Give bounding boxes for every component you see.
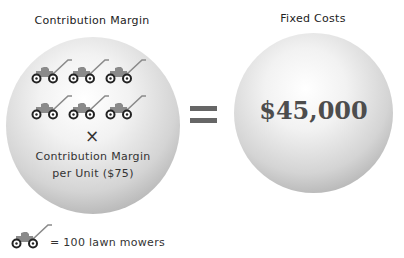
equals-bar-top <box>190 106 217 111</box>
lawn-mower-icon <box>105 93 149 121</box>
fixed-costs-value: $45,000 <box>234 96 393 125</box>
lawn-mower-icon <box>105 57 149 85</box>
equals-bar-bottom <box>190 118 217 123</box>
multiply-sign: × <box>72 126 112 146</box>
legend-text: = 100 lawn mowers <box>50 236 165 249</box>
cm-label-line2: per Unit ($75) <box>18 165 168 182</box>
contribution-margin-per-unit-label: Contribution Margin per Unit ($75) <box>18 148 168 182</box>
fixed-costs-title: Fixed Costs <box>233 12 393 25</box>
lawn-mower-icon <box>11 222 55 250</box>
contribution-margin-title: Contribution Margin <box>12 14 172 27</box>
cm-label-line1: Contribution Margin <box>18 148 168 165</box>
